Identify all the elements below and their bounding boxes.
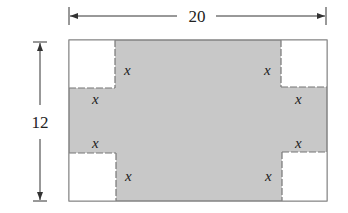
x-label-bottom-right-horizontal: x bbox=[294, 135, 302, 151]
width-label: 20 bbox=[189, 7, 206, 26]
x-label-top-right-horizontal: x bbox=[294, 91, 302, 107]
x-label-bottom-right-vertical: x bbox=[264, 168, 272, 184]
arrow-down-icon bbox=[37, 192, 43, 200]
width-dimension: 20 bbox=[69, 7, 326, 26]
corner-square-bottom-right bbox=[282, 152, 327, 201]
height-dimension: 12 bbox=[32, 42, 49, 201]
corner-square-top-right bbox=[281, 40, 327, 87]
x-label-bottom-left-vertical: x bbox=[124, 168, 132, 184]
x-label-top-left-horizontal: x bbox=[91, 91, 99, 107]
x-label-top-left-vertical: x bbox=[123, 62, 131, 78]
x-label-bottom-left-horizontal: x bbox=[91, 135, 99, 151]
corner-square-top-left bbox=[69, 40, 115, 88]
x-label-top-right-vertical: x bbox=[263, 62, 271, 78]
arrow-left-icon bbox=[70, 13, 78, 19]
corner-square-bottom-left bbox=[69, 153, 116, 201]
arrow-right-icon bbox=[317, 13, 325, 19]
height-label: 12 bbox=[32, 113, 49, 132]
arrow-up-icon bbox=[37, 43, 43, 51]
box-net-diagram: 20 12 x x x x x x x x bbox=[0, 0, 348, 213]
